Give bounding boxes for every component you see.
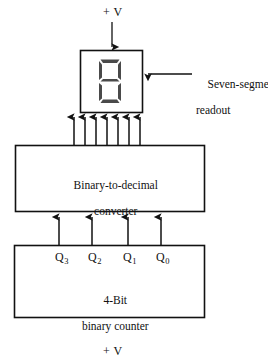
supply-top-label: + V xyxy=(103,6,123,19)
converter-to-display-lines xyxy=(74,117,140,145)
block-diagram-canvas: + V Seven-segment readout Binary-to-deci… xyxy=(0,0,268,360)
counter-output-q3-subscript: 3 xyxy=(64,256,68,266)
converter-label: Binary-to-decimal converter xyxy=(15,166,205,230)
counter-output-q3: Q3 xyxy=(55,250,68,265)
counter-output-q3-name: Q xyxy=(55,250,64,264)
counter-output-q1-subscript: 1 xyxy=(132,256,136,266)
counter-label-line1: 4-Bit xyxy=(103,294,127,306)
counter-output-q0-name: Q xyxy=(156,250,165,264)
counter-label: 4-Bit binary counter xyxy=(14,281,205,345)
counter-output-q2-subscript: 2 xyxy=(97,256,101,266)
converter-label-line2: converter xyxy=(94,205,137,217)
counter-output-q2: Q2 xyxy=(88,250,101,265)
segment-c-icon xyxy=(118,83,121,101)
supply-bottom-label: + V xyxy=(103,345,123,358)
segment-e-icon xyxy=(99,83,102,101)
counter-output-q1: Q1 xyxy=(123,250,136,265)
readout-callout-label-line2: readout xyxy=(196,104,268,117)
segment-g-icon xyxy=(101,79,120,82)
counter-output-q0: Q0 xyxy=(156,250,169,265)
readout-callout-label-line1: Seven-segment xyxy=(208,78,269,90)
counter-output-q1-name: Q xyxy=(123,250,132,264)
segment-a-icon xyxy=(101,60,120,64)
readout-callout-label: Seven-segment readout xyxy=(196,65,268,142)
counter-label-line2: binary counter xyxy=(82,320,149,332)
segment-d-icon xyxy=(101,100,120,104)
counter-output-q0-subscript: 0 xyxy=(165,256,169,266)
converter-label-line1: Binary-to-decimal xyxy=(74,179,158,191)
counter-output-q2-name: Q xyxy=(88,250,97,264)
